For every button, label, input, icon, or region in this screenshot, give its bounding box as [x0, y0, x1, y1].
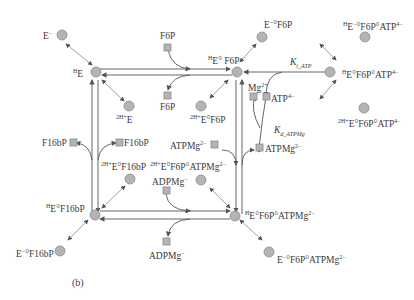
- label-2HE: 2H+E: [116, 114, 133, 126]
- label-Kd-ATPMg: Kd_ATPMg: [274, 126, 305, 137]
- node-HE: [91, 67, 101, 77]
- label-E-minus: E−: [43, 30, 52, 42]
- label-F6P-in: F6P: [160, 32, 175, 42]
- node-HEF6P: [232, 67, 242, 77]
- square-Mg: [250, 93, 257, 100]
- label-Ki-ATP: Ki_ATP: [290, 58, 311, 69]
- label-EF6P-minus: E−°F6P: [264, 19, 292, 31]
- node-EF6P-minus: [257, 32, 267, 42]
- node-2HEF6PATPMg: [196, 175, 206, 185]
- node-EF6PATPMg-minus: [264, 247, 274, 257]
- label-F16bP-left: F16bP: [42, 139, 67, 149]
- label-F16bP-right: F16bP: [124, 139, 149, 149]
- node-HEF6PATP: [325, 67, 335, 77]
- label-2HEF6PATP: 2H+E°F6P°ATP4−: [338, 118, 401, 130]
- square-ADPMg-out: [163, 238, 170, 245]
- label-HEF16bP: HE°F16bP: [46, 203, 85, 215]
- label-ATPMg-right: ATPMg2−: [265, 143, 301, 155]
- square-F6P-in: [164, 44, 171, 51]
- label-HEF6PATPMg: HE°F6P°ATPMg2−: [245, 210, 315, 222]
- node-2HE: [124, 101, 134, 111]
- label-F6P-out: F6P: [160, 103, 175, 113]
- node-E-minus: [57, 30, 67, 40]
- label-Mg: Mg2+: [248, 82, 268, 94]
- label-ATPMg-left: ATPMg2−: [170, 140, 206, 152]
- square-ATP: [263, 93, 270, 100]
- square-F16bP-right: [116, 139, 123, 146]
- square-ATPMg-right: [256, 144, 263, 151]
- label-2HEF16bP: 2H+E°F16bP: [101, 161, 146, 173]
- label-EF6PATP-minus: HE−°F6P°ATP4−: [343, 21, 403, 33]
- label-2HEF6P: 2H+E°F6P: [190, 114, 226, 126]
- square-ADPMg-in: [163, 187, 170, 194]
- node-2HEF16bP: [125, 174, 135, 184]
- node-2HEF6P: [196, 101, 206, 111]
- node-2HEF6PATP: [359, 103, 369, 113]
- label-ADPMg-in: ADPMg−: [152, 176, 188, 188]
- label-ADPMg-out: ADPMg−: [149, 250, 185, 262]
- square-F16bP-left: [70, 139, 77, 146]
- square-F6P-out: [164, 92, 171, 99]
- label-HEF6P: HE° F6P: [208, 55, 240, 67]
- label-HE: HE: [73, 68, 83, 80]
- node-EF16bP-minus: [55, 246, 65, 256]
- node-HEF6PATPMg: [230, 211, 240, 221]
- node-EF6PATP-minus: [360, 32, 370, 42]
- node-HEF16bP: [90, 210, 100, 220]
- edge-right: [222, 80, 254, 214]
- panel-label: (b): [72, 278, 84, 288]
- label-EF16bP-minus: E−°F16bP: [16, 248, 54, 260]
- label-HEF6PATP: HE°F6P°ATP4−: [342, 69, 398, 81]
- edge-left: [76, 80, 116, 212]
- reaction-scheme-diagram: [0, 0, 414, 300]
- square-ATPMg-left: [211, 141, 218, 148]
- label-EF6PATPMg-minus: E−°F6P°ATPMg2−: [277, 254, 346, 266]
- label-2HEF6PATPMg: 2H+E°F6P°ATPMg2−: [150, 161, 226, 173]
- label-ATP: ATP4−: [271, 93, 294, 105]
- edge-bottom: [100, 194, 230, 236]
